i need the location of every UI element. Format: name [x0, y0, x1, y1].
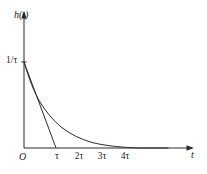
- y-axis-label: h(t): [14, 10, 28, 20]
- tangent-line: [24, 62, 56, 148]
- x-tick-label-tau: τ: [50, 152, 64, 162]
- x-tick-label-2tau: 2τ: [71, 152, 87, 162]
- exponential-curve: [24, 62, 168, 148]
- y-axis: [21, 11, 26, 148]
- x-tick-label-3tau: 3τ: [94, 152, 110, 162]
- origin-label: O: [19, 152, 26, 162]
- y-tick-label-one-over-tau: 1/τ: [6, 56, 17, 66]
- x-tick-label-4tau: 4τ: [117, 152, 133, 162]
- x-axis-label: t: [191, 150, 194, 160]
- caption-fragment: [0, 163, 207, 174]
- exponential-decay-figure: h(t) t 1/τ O τ 2τ 3τ 4τ: [0, 0, 207, 174]
- plot-canvas: [0, 0, 207, 174]
